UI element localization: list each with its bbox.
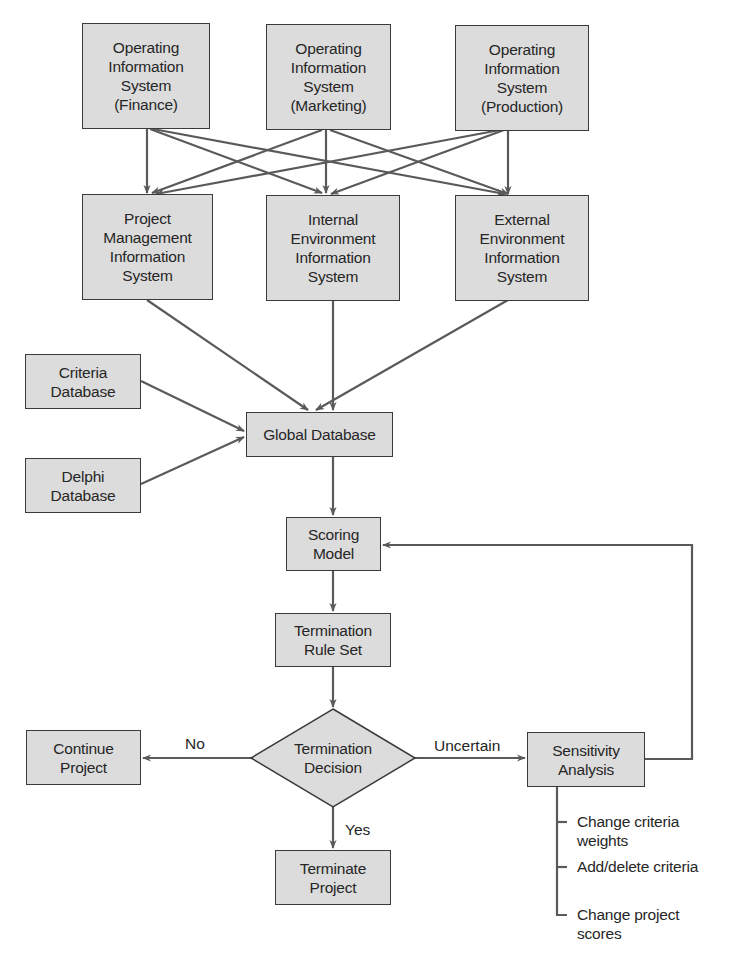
edge-sensitivity-feedback-to-scoring — [383, 545, 692, 759]
sensitivity-option-change-criteria-weights: Change criteria weights — [577, 812, 679, 850]
edge-label-yes: Yes — [345, 820, 370, 839]
node-external-environment-is[interactable]: External Environment Information System — [455, 195, 589, 301]
node-ois-finance[interactable]: Operating Information System (Finance) — [82, 23, 210, 129]
node-criteria-database[interactable]: Criteria Database — [25, 354, 141, 409]
node-global-database[interactable]: Global Database — [246, 412, 393, 457]
sensitivity-option-add-delete-criteria: Add/delete criteria — [577, 857, 698, 876]
edge-eeis-to-global — [316, 300, 508, 410]
node-sensitivity-analysis[interactable]: Sensitivity Analysis — [527, 732, 645, 787]
node-terminate-project[interactable]: Terminate Project — [275, 850, 391, 905]
edge-label-no: No — [185, 734, 205, 753]
project-termination-flowchart: Operating Information System (Finance) O… — [0, 0, 741, 961]
node-ois-marketing[interactable]: Operating Information System (Marketing) — [266, 24, 391, 130]
node-scoring-model[interactable]: Scoring Model — [286, 517, 381, 571]
edge-label-uncertain: Uncertain — [434, 736, 500, 755]
edge-pmis-to-global — [147, 300, 308, 410]
node-internal-environment-is[interactable]: Internal Environment Information System — [266, 195, 400, 301]
node-project-management-is[interactable]: Project Management Information System — [82, 194, 213, 300]
edge-criteria-to-global — [141, 381, 244, 431]
node-ois-production[interactable]: Operating Information System (Production… — [455, 25, 589, 131]
sensitivity-options-bracket — [557, 786, 567, 915]
termination-decision-diamond[interactable] — [251, 709, 415, 807]
sensitivity-option-change-project-scores: Change project scores — [577, 905, 679, 943]
edge-delphi-to-global — [141, 437, 244, 484]
node-continue-project[interactable]: Continue Project — [26, 730, 141, 785]
node-termination-rule-set[interactable]: Termination Rule Set — [275, 613, 391, 667]
node-delphi-database[interactable]: Delphi Database — [25, 458, 141, 513]
